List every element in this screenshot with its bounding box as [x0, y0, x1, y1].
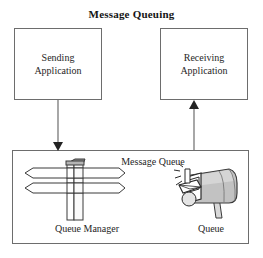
receiving-application-label-line2: Application — [161, 64, 247, 77]
signpost-icon — [23, 156, 131, 226]
sending-application-label: Sending Application — [15, 51, 101, 77]
page-title: Message Queuing — [0, 8, 263, 20]
message-queue-node: Message Queue — [12, 150, 249, 244]
mailbox-icon — [171, 163, 243, 223]
receive-arrow — [189, 100, 199, 150]
diagram-canvas: Message Queuing Sending Application Rece… — [0, 0, 263, 258]
receiving-application-node: Receiving Application — [160, 28, 248, 100]
send-arrow — [53, 100, 63, 151]
receiving-application-label-line1: Receiving — [161, 51, 247, 64]
sending-application-label-line1: Sending — [15, 51, 101, 64]
receiving-application-label: Receiving Application — [161, 51, 247, 77]
queue-caption: Queue — [178, 223, 244, 234]
sending-application-label-line2: Application — [15, 64, 101, 77]
queue-manager-caption: Queue Manager — [27, 223, 147, 234]
sending-application-node: Sending Application — [14, 28, 102, 100]
